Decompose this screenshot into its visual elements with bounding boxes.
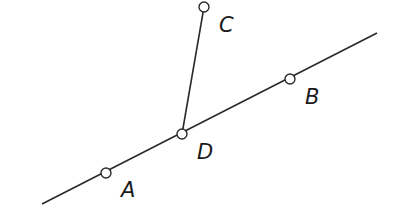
point-d-marker: [177, 129, 187, 139]
point-a-marker: [101, 168, 111, 178]
point-c-label: C: [219, 13, 234, 37]
point-b-label: B: [305, 85, 319, 109]
point-b-marker: [285, 74, 295, 84]
point-d-label: D: [197, 140, 213, 164]
line-ab: [42, 33, 377, 204]
point-c-marker: [199, 2, 209, 12]
geometry-diagram: A B C D: [0, 0, 400, 215]
point-a-label: A: [119, 178, 135, 202]
segment-dc: [182, 7, 204, 134]
